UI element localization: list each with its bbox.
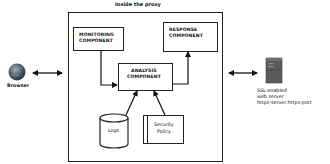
- server-tower-icon: [266, 58, 282, 83]
- response-component: RESPONSE COMPONENT: [163, 22, 218, 52]
- globe-icon: [9, 64, 26, 81]
- security-policy-store: Security Policy: [143, 115, 184, 144]
- proxy-title: Inside the proxy: [115, 1, 161, 7]
- policy-line2: Policy: [157, 129, 171, 135]
- monitoring-component: MONITORING COMPONENT: [73, 27, 124, 51]
- server-label-line3: https-server:https-port: [257, 100, 312, 106]
- policy-line1: Security: [154, 122, 174, 128]
- analysis-line2: COMPONENT: [127, 74, 161, 80]
- response-line2: COMPONENT: [169, 33, 203, 39]
- analysis-component: ANALYSIS COMPONENT: [118, 63, 173, 91]
- policy-divider: [147, 116, 148, 143]
- monitoring-line2: COMPONENT: [79, 38, 113, 44]
- browser-label: Browser: [7, 83, 29, 89]
- logs-label: Logs: [108, 128, 119, 134]
